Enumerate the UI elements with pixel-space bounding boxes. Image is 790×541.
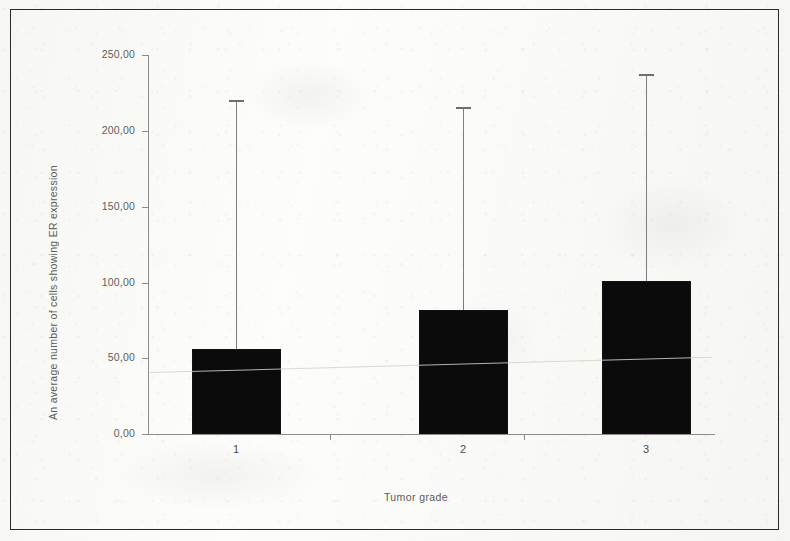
bar-grade-2	[419, 310, 508, 434]
error-bar-line-grade-2	[463, 108, 464, 310]
x-axis-tick-label-3: 3	[626, 443, 666, 455]
error-bar-cap-grade-3	[639, 74, 654, 76]
y-axis-tick-label: 0,00	[39, 427, 135, 439]
y-axis-tick-label: 200,00	[39, 124, 135, 136]
bar-grade-3	[602, 281, 691, 434]
y-axis-tick-label: 150,00	[39, 200, 135, 212]
error-bar-line-grade-3	[646, 75, 647, 281]
x-axis-tick-label-2: 2	[443, 443, 483, 455]
y-axis-line	[148, 55, 149, 435]
bar-grade-1	[192, 349, 281, 434]
x-axis-line	[148, 434, 715, 435]
y-axis-tick-label: 100,00	[39, 276, 135, 288]
y-axis-tick-label: 50,00	[39, 351, 135, 363]
y-axis-title: An average number of cells showing ER ex…	[45, 60, 61, 420]
error-bar-cap-grade-1	[229, 100, 244, 102]
x-axis-tick-label-1: 1	[216, 443, 256, 455]
x-axis-tick	[330, 434, 331, 440]
x-axis-tick	[524, 434, 525, 440]
figure-page: An average number of cells showing ER ex…	[0, 0, 790, 541]
y-axis-tick-label: 250,00	[39, 48, 135, 60]
error-bar-cap-grade-2	[456, 107, 471, 109]
x-axis-title: Tumor grade	[296, 491, 536, 503]
error-bar-line-grade-1	[236, 101, 237, 349]
plot-area: An average number of cells showing ER ex…	[0, 0, 790, 541]
